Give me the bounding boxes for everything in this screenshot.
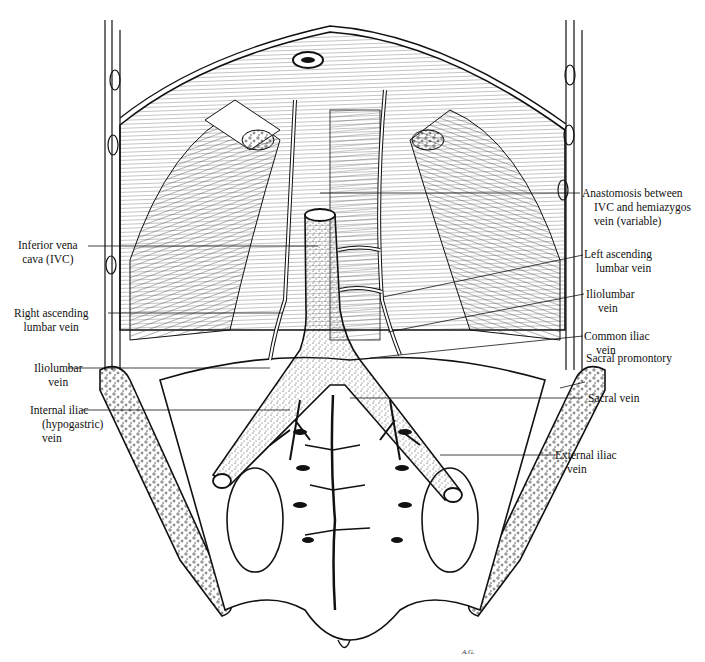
label-left-ascending-lumbar-vein: Left ascending lumbar vein (584, 247, 652, 275)
label-anastomosis: Anastomosis between IVC and hemiazygos v… (582, 186, 691, 228)
label-ivc: Inferior vena cava (IVC) (18, 238, 78, 266)
body-wall-left (105, 20, 120, 370)
label-iliolumbar-vein-right: Iliolumbar vein (586, 287, 635, 315)
artist-initials: A.G. (461, 648, 475, 656)
label-sacral-promontory: Sacral promontory (586, 351, 672, 365)
label-internal-iliac-vein: Internal iliac (hypogastric) vein (30, 403, 103, 445)
anatomy-figure: A.G. Inferior vena cava (IVC) Right asce… (0, 0, 705, 662)
label-external-iliac-vein: External iliac vein (555, 448, 617, 476)
label-right-ascending-lumbar-vein: Right ascending lumbar vein (14, 306, 88, 334)
label-sacral-vein: Sacral vein (588, 391, 639, 405)
label-iliolumbar-vein-left: Iliolumbar vein (34, 361, 83, 389)
